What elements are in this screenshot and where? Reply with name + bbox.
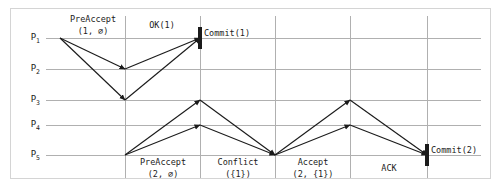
- label-line-1: Commit(1): [204, 28, 250, 38]
- message-flow-diagram: P1P2P3P4P5 PreAccept(1, ∅)OK(1)Commit(1)…: [0, 0, 503, 189]
- arrow-accept-p5-p4: [275, 125, 350, 155]
- arrow-ack-p4-p5: [350, 125, 427, 155]
- replica-label-p4: P4: [16, 119, 40, 132]
- label-line-1: ACK: [381, 163, 396, 173]
- arrow-ok-p2-p1: [125, 38, 200, 69]
- replica-timelines: [46, 38, 481, 155]
- replica-index: 1: [36, 37, 40, 45]
- replica-label-p2: P2: [16, 63, 40, 76]
- commit-1-label: Commit(1): [204, 28, 250, 40]
- commit-2-label: Commit(2): [431, 145, 477, 157]
- replica-index: 5: [36, 154, 40, 162]
- arrow-preaccept-p1-p2: [60, 38, 125, 69]
- replica-index: 2: [36, 68, 40, 76]
- replica-label-p3: P3: [16, 94, 40, 107]
- commit-marks: [200, 27, 427, 166]
- arrow-preaccept-p5-p3: [125, 100, 200, 155]
- message-arrows: [60, 38, 427, 155]
- arrow-conflict-p4-p5: [200, 125, 275, 155]
- replica-index: 4: [36, 124, 40, 132]
- arrow-conflict-p3-p5: [200, 100, 275, 155]
- ack-label: ACK: [329, 163, 449, 175]
- label-line-1: OK(1): [149, 20, 175, 30]
- arrow-preaccept-p5-p4: [125, 125, 200, 155]
- replica-label-p5: P5: [16, 149, 40, 162]
- arrow-accept-p5-p3: [275, 100, 350, 155]
- label-line-1: Accept: [298, 157, 329, 167]
- label-line-1: Commit(2): [431, 145, 477, 155]
- replica-index: 3: [36, 99, 40, 107]
- arrow-ack-p3-p5: [350, 100, 427, 155]
